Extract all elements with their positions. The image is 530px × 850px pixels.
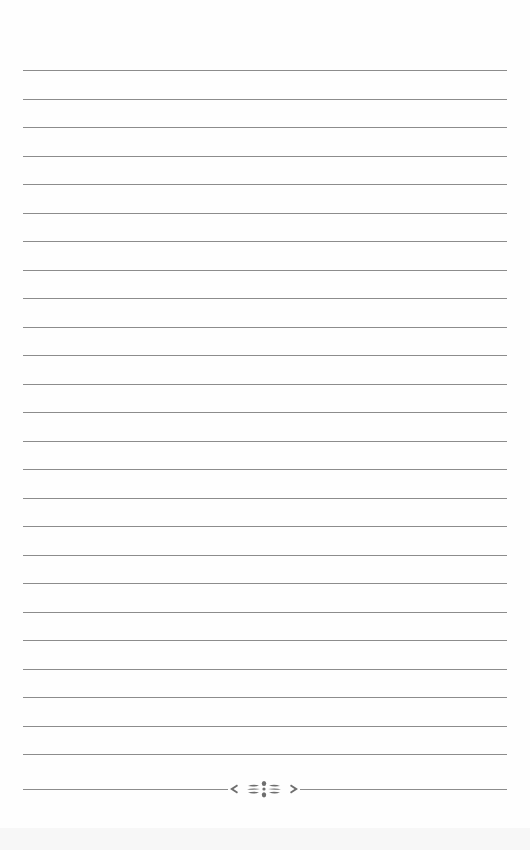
ruled-line	[23, 298, 507, 299]
ruled-line	[23, 213, 507, 214]
ruled-line	[23, 127, 507, 128]
ruled-line	[23, 384, 507, 385]
ruled-line	[23, 754, 507, 755]
ruled-line	[23, 99, 507, 100]
footer-rule-left	[23, 789, 228, 790]
ruled-line	[23, 469, 507, 470]
ruled-line	[23, 498, 507, 499]
ruled-line	[23, 184, 507, 185]
ruled-line	[23, 70, 507, 71]
ruled-line	[23, 726, 507, 727]
ruled-line	[23, 640, 507, 641]
notebook-page	[0, 0, 530, 850]
ruled-line	[23, 555, 507, 556]
ruled-line	[23, 526, 507, 527]
ruled-line	[23, 441, 507, 442]
page-bottom-margin	[0, 828, 530, 850]
ruled-line	[23, 697, 507, 698]
footer-ornament-rule	[23, 782, 507, 796]
ruled-line	[23, 270, 507, 271]
ruled-line	[23, 355, 507, 356]
ruled-line	[23, 241, 507, 242]
ruled-line	[23, 412, 507, 413]
ruled-line	[23, 612, 507, 613]
floral-flourish-icon	[228, 779, 300, 799]
ruled-line	[23, 156, 507, 157]
footer-rule-right	[300, 789, 507, 790]
ruled-line	[23, 327, 507, 328]
ruled-line	[23, 669, 507, 670]
ruled-line	[23, 583, 507, 584]
